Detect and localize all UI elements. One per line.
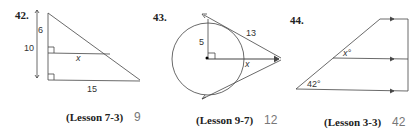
label-15: 15: [87, 84, 97, 94]
figure-43: [172, 14, 281, 99]
label-x: x: [244, 59, 250, 69]
label-5: 5: [199, 37, 204, 47]
label-6: 6: [38, 25, 43, 35]
figure-42: [35, 10, 140, 81]
problem-42-lesson: (Lesson 7-3): [66, 111, 123, 123]
problem-43-lesson: (Lesson 9-7): [196, 114, 253, 126]
figures: 6 10 x 15 5 13 x x° 42°: [0, 0, 414, 132]
problem-43-answer: 12: [264, 113, 277, 127]
label-x: x: [75, 53, 81, 63]
label-42-degrees: 42°: [307, 79, 321, 89]
label-10: 10: [24, 43, 34, 53]
problem-44-answer: 42: [392, 115, 405, 129]
problem-42-answer: 9: [134, 110, 141, 124]
problem-44-lesson: (Lesson 3-3): [324, 116, 381, 128]
label-13: 13: [246, 28, 256, 38]
label-x-degrees: x°: [342, 48, 352, 58]
